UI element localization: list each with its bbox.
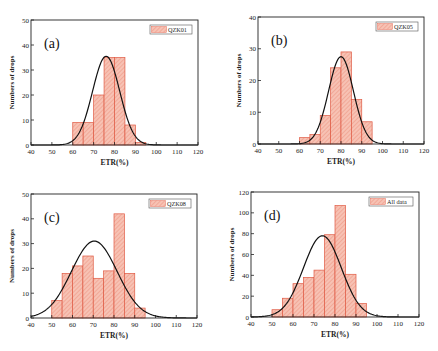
y-tick-label: 40 (22, 215, 30, 223)
legend: QZK08 (149, 199, 191, 208)
y-tick-label: 0 (26, 142, 30, 150)
histogram-bar (314, 270, 325, 317)
y-axis-label: Numbers of drops (235, 53, 243, 107)
x-tick-label: 70 (311, 320, 319, 328)
legend-swatch (152, 27, 167, 33)
legend-label: All data (387, 198, 407, 205)
panel-label: (a) (44, 36, 60, 52)
x-axis-label: ETR(%) (100, 331, 128, 340)
y-axis-label: Numbers of drops (8, 229, 16, 283)
histogram-bar (272, 310, 283, 317)
x-tick-label: 110 (172, 148, 183, 156)
x-tick-label: 60 (69, 148, 77, 156)
x-tick-label: 80 (332, 320, 340, 328)
legend-swatch (371, 199, 386, 205)
panel-c: 40506070809010011012001020304050ETR(%)Nu… (8, 191, 203, 341)
y-tick-label: 20 (22, 92, 30, 100)
panel-b: 405060708090100110120010203040ETR(%)Numb… (235, 14, 430, 167)
y-tick-label: 40 (249, 14, 257, 22)
y-axis: 020406080100120 (239, 189, 255, 322)
y-tick-label: 0 (246, 314, 250, 322)
x-tick-label: 120 (193, 148, 204, 156)
x-tick-label: 120 (419, 147, 430, 155)
x-tick-label: 60 (296, 147, 304, 155)
y-tick-label: 40 (22, 42, 30, 50)
x-tick-label: 70 (90, 148, 98, 156)
y-tick-label: 0 (26, 315, 30, 323)
x-tick-label: 60 (69, 321, 77, 329)
histogram-bar (135, 308, 145, 318)
y-tick-label: 50 (22, 191, 30, 199)
histogram-grid: 40506070809010011012001020304050ETR(%)Nu… (0, 0, 438, 351)
x-tick-label: 100 (150, 321, 161, 329)
histogram-bar (325, 235, 336, 317)
figure: 40506070809010011012001020304050ETR(%)Nu… (0, 0, 438, 351)
x-tick-label: 110 (398, 147, 409, 155)
bars (52, 214, 145, 318)
y-tick-label: 20 (249, 77, 257, 85)
y-tick-label: 20 (242, 293, 250, 301)
legend-label: QZK08 (167, 200, 186, 207)
x-tick-label: 120 (192, 321, 203, 329)
x-tick-label: 120 (414, 320, 425, 328)
y-tick-label: 40 (242, 272, 250, 280)
histogram-bar (331, 68, 341, 144)
x-tick-label: 90 (358, 147, 366, 155)
x-tick-label: 50 (269, 320, 277, 328)
histogram-bar (114, 214, 124, 318)
x-axis-label: ETR(%) (321, 330, 349, 339)
y-tick-label: 50 (22, 17, 30, 25)
legend-swatch (151, 201, 166, 207)
x-tick-label: 50 (48, 148, 56, 156)
y-axis: 01020304050 (22, 17, 34, 150)
x-tick-label: 50 (48, 321, 56, 329)
legend: QZK05 (376, 22, 418, 31)
y-tick-label: 60 (242, 251, 250, 259)
x-tick-label: 90 (353, 320, 361, 328)
y-tick-label: 100 (239, 209, 250, 217)
y-tick-label: 30 (249, 45, 257, 53)
legend-swatch (378, 24, 393, 30)
x-tick-label: 50 (275, 147, 283, 155)
legend-label: QZK01 (168, 26, 187, 33)
y-axis-label: Numbers of drops (8, 55, 16, 109)
histogram-bar (304, 277, 315, 317)
y-axis: 010203040 (249, 14, 261, 149)
x-axis-label: ETR(%) (327, 157, 355, 166)
legend: All data (369, 197, 413, 206)
y-tick-label: 120 (239, 189, 250, 197)
histogram-bar (346, 274, 357, 317)
histogram-bar (335, 206, 346, 317)
x-tick-label: 110 (393, 320, 404, 328)
y-tick-label: 10 (249, 109, 257, 117)
y-axis: 01020304050 (22, 191, 34, 323)
histogram-bar (104, 58, 114, 146)
x-tick-label: 60 (290, 320, 298, 328)
panel-a: 40506070809010011012001020304050ETR(%)Nu… (8, 17, 204, 168)
x-tick-label: 90 (132, 148, 140, 156)
y-tick-label: 10 (22, 117, 30, 125)
y-tick-label: 30 (22, 240, 30, 248)
x-tick-label: 70 (90, 321, 98, 329)
histogram-bar (104, 271, 114, 318)
y-tick-label: 20 (22, 265, 30, 273)
x-tick-label: 100 (372, 320, 383, 328)
y-tick-label: 10 (22, 290, 30, 298)
x-tick-label: 110 (171, 321, 182, 329)
x-tick-label: 100 (377, 147, 388, 155)
histogram-bar (83, 123, 93, 146)
x-tick-label: 100 (151, 148, 162, 156)
panel-label: (d) (264, 208, 281, 224)
panel-label: (b) (271, 33, 288, 49)
bars (272, 206, 367, 317)
histogram-bar (83, 256, 93, 318)
x-tick-label: 80 (111, 148, 119, 156)
x-axis-label: ETR(%) (101, 158, 129, 167)
y-tick-label: 30 (22, 67, 30, 75)
bars (73, 58, 146, 146)
x-tick-label: 90 (131, 321, 139, 329)
legend-label: QZK05 (394, 23, 413, 30)
y-axis-label: Numbers of drops (228, 227, 236, 281)
histogram-bar (94, 95, 104, 145)
histogram-bar (93, 278, 103, 318)
